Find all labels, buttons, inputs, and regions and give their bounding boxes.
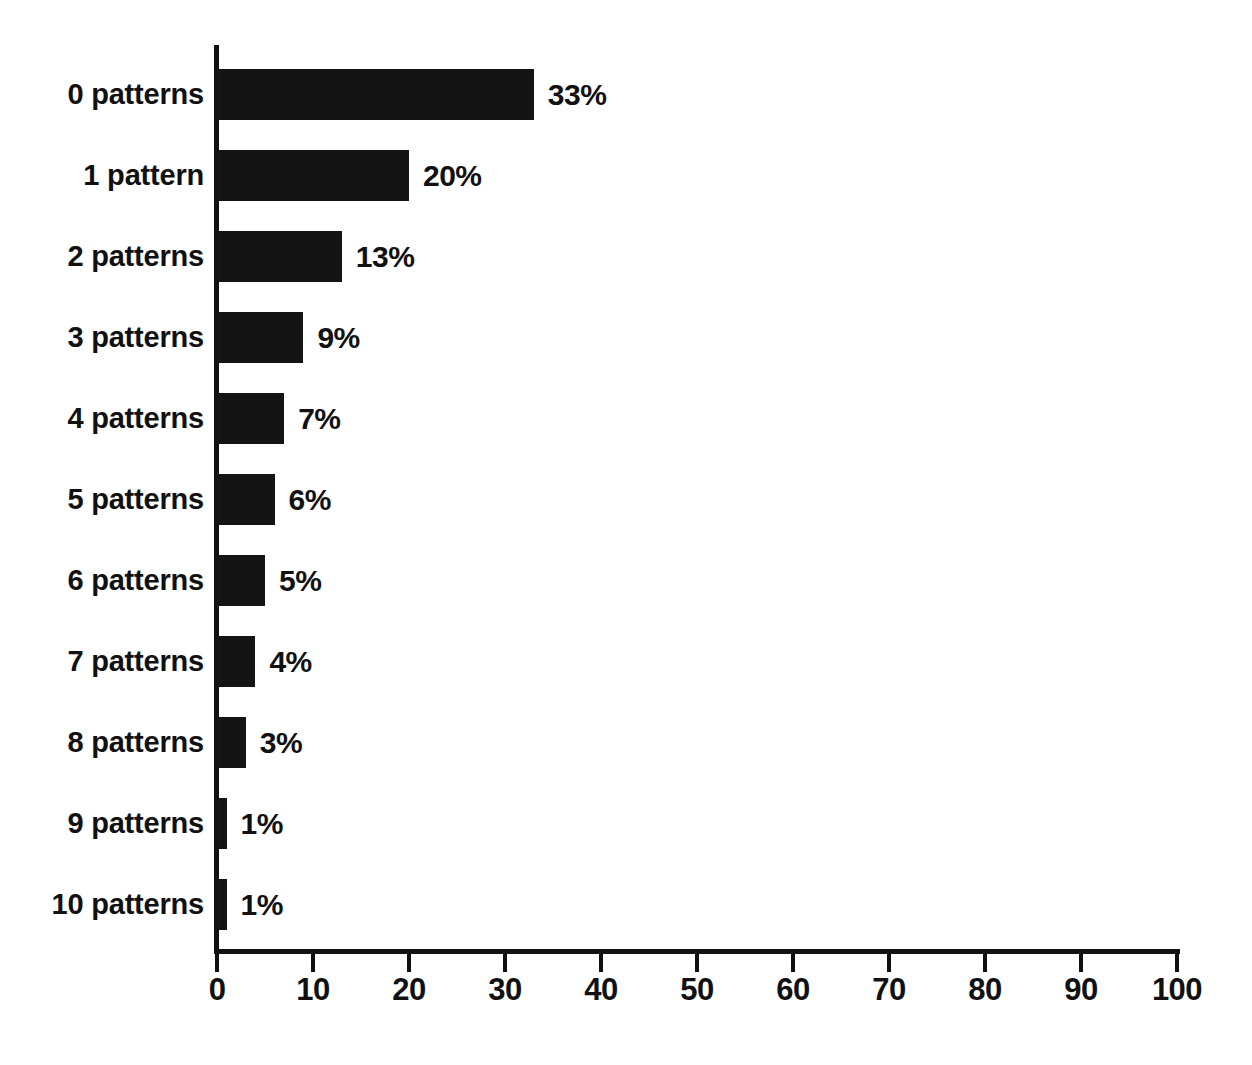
bar-value-label: 7%	[298, 393, 340, 444]
bar	[217, 879, 227, 930]
bar-row: 1 pattern20%	[0, 150, 1252, 201]
bar-value-label: 9%	[317, 312, 359, 363]
x-axis-tick	[887, 954, 891, 972]
bar-value-label: 1%	[241, 798, 283, 849]
bar	[217, 312, 303, 363]
bar-value-label: 33%	[548, 69, 607, 120]
category-label: 6 patterns	[0, 555, 204, 606]
bar	[217, 474, 275, 525]
bar	[217, 231, 342, 282]
bar-value-label: 3%	[260, 717, 302, 768]
x-axis-tick	[503, 954, 507, 972]
bar-row: 8 patterns3%	[0, 717, 1252, 768]
bar-value-label: 13%	[356, 231, 415, 282]
bar-value-label: 5%	[279, 555, 321, 606]
bar-row: 4 patterns7%	[0, 393, 1252, 444]
bar-row: 0 patterns33%	[0, 69, 1252, 120]
x-axis-tick	[599, 954, 603, 972]
category-label: 2 patterns	[0, 231, 204, 282]
category-label: 7 patterns	[0, 636, 204, 687]
bar-value-label: 1%	[241, 879, 283, 930]
bar-chart: 0102030405060708090100 0 patterns33%1 pa…	[0, 0, 1252, 1065]
category-label: 9 patterns	[0, 798, 204, 849]
x-axis-tick-label: 100	[1117, 972, 1237, 1008]
x-axis-tick	[311, 954, 315, 972]
category-label: 5 patterns	[0, 474, 204, 525]
x-axis-tick	[791, 954, 795, 972]
bar-row: 2 patterns13%	[0, 231, 1252, 282]
bar	[217, 555, 265, 606]
x-axis-tick	[1175, 954, 1179, 972]
bar-row: 7 patterns4%	[0, 636, 1252, 687]
bar-row: 6 patterns5%	[0, 555, 1252, 606]
bar-value-label: 20%	[423, 150, 482, 201]
bar-row: 5 patterns6%	[0, 474, 1252, 525]
bar	[217, 798, 227, 849]
category-label: 4 patterns	[0, 393, 204, 444]
bar-value-label: 6%	[289, 474, 331, 525]
bar	[217, 717, 246, 768]
bar-row: 9 patterns1%	[0, 798, 1252, 849]
bar	[217, 636, 255, 687]
bar	[217, 393, 284, 444]
category-label: 8 patterns	[0, 717, 204, 768]
category-label: 10 patterns	[0, 879, 204, 930]
x-axis-tick	[407, 954, 411, 972]
bar	[217, 150, 409, 201]
bar-row: 3 patterns9%	[0, 312, 1252, 363]
bar	[217, 69, 534, 120]
x-axis-tick	[983, 954, 987, 972]
x-axis-tick	[1079, 954, 1083, 972]
x-axis-tick	[695, 954, 699, 972]
category-label: 3 patterns	[0, 312, 204, 363]
bar-row: 10 patterns1%	[0, 879, 1252, 930]
x-axis-tick	[215, 954, 219, 972]
bar-value-label: 4%	[269, 636, 311, 687]
category-label: 1 pattern	[0, 150, 204, 201]
category-label: 0 patterns	[0, 69, 204, 120]
